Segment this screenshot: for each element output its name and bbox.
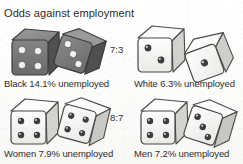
page-title: Odds against employment	[4, 7, 134, 19]
caption-white: White 6.3% unemployed	[134, 78, 235, 89]
die-women-right-four	[54, 92, 114, 150]
ratio-black-white: 7:3	[110, 44, 123, 55]
caption-women: Women 7.9% unemployed	[4, 148, 113, 159]
caption-men: Men 7.2% unemployed	[134, 148, 229, 159]
die-men-right-three	[181, 94, 241, 152]
odds-against-employment-infographic: Odds against employment	[0, 0, 243, 164]
ratio-women-men: 8:7	[110, 112, 123, 123]
die-white-right-one	[181, 30, 241, 84]
caption-black: Black 14.1% unemployed	[4, 78, 109, 89]
die-black-right-three	[52, 22, 110, 80]
